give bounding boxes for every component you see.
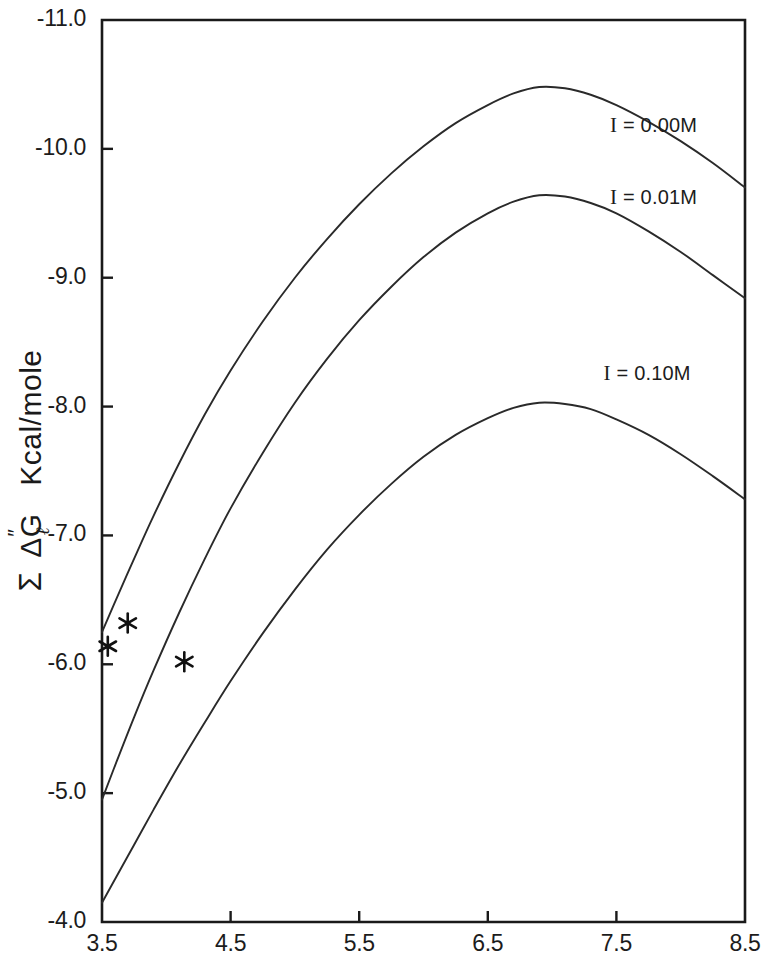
- y-tick-label: -11.0: [8, 5, 86, 32]
- y-tick-label: -5.0: [8, 778, 86, 805]
- x-tick-label: 5.5: [324, 930, 394, 957]
- marker-center: [125, 620, 130, 625]
- series-label-value: = 0.01M: [617, 186, 697, 208]
- data-curve-2: [102, 195, 745, 800]
- x-tick-label: 4.5: [196, 930, 266, 957]
- marker-center: [105, 644, 110, 649]
- x-tick-label: 8.5: [710, 930, 771, 957]
- plot-frame: [102, 20, 745, 922]
- series-label-3: I = 0.10M: [604, 361, 691, 386]
- y-axis-label-sigma: Σ: [12, 572, 48, 592]
- series-label-1: I = 0.00M: [610, 113, 697, 138]
- y-axis-label: ΣΔG″ℓKcal/mole: [12, 236, 49, 706]
- y-tick-label: -7.0: [8, 520, 86, 547]
- data-marker-asterisk: [176, 652, 192, 671]
- chart-figure: ΣΔG″ℓKcal/mole -11.0-10.0-9.0-8.0-7.0-6.…: [0, 0, 771, 958]
- data-curve-1: [102, 87, 745, 632]
- x-tick-label: 7.5: [581, 930, 651, 957]
- y-tick-label: -8.0: [8, 392, 86, 419]
- plot-area: [0, 0, 771, 958]
- series-label-value: = 0.10M: [611, 362, 691, 384]
- series-label-symbol: I: [604, 361, 611, 385]
- series-label-value: = 0.00M: [617, 114, 697, 136]
- y-tick-label: -9.0: [8, 263, 86, 290]
- marker-center: [182, 659, 187, 664]
- series-label-2: I = 0.01M: [610, 185, 697, 210]
- y-tick-label: -10.0: [8, 134, 86, 161]
- x-tick-label: 6.5: [453, 930, 523, 957]
- data-marker-asterisk: [119, 614, 135, 633]
- data-curve-3: [102, 402, 745, 902]
- y-tick-label: -6.0: [8, 649, 86, 676]
- x-tick-label: 3.5: [67, 930, 137, 957]
